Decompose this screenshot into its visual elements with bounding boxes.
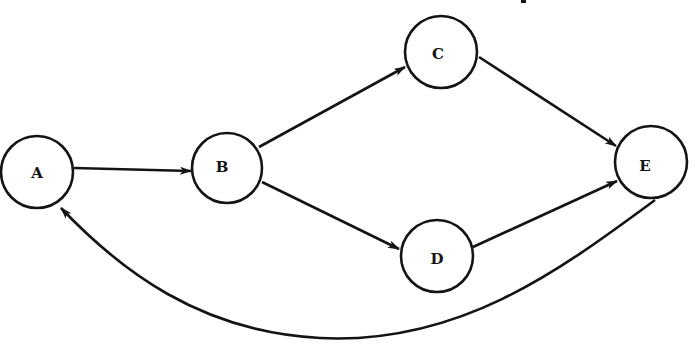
node-a-label: A: [30, 164, 43, 182]
edge-e-to-a: [61, 200, 655, 338]
node-e: E: [615, 126, 687, 198]
node-a: A: [1, 136, 73, 208]
node-d-label: D: [430, 250, 443, 268]
node-c: C: [405, 16, 477, 88]
node-d: D: [401, 220, 473, 292]
cropped-text-fragment: [521, 0, 526, 3]
edge-a-to-b: [74, 168, 191, 171]
edge-c-to-e: [479, 57, 616, 146]
edge-b-to-c: [259, 67, 405, 147]
directed-graph-diagram: A B C D E: [0, 0, 695, 350]
node-e-label: E: [639, 157, 650, 175]
node-c-label: C: [432, 45, 444, 63]
node-b: B: [192, 133, 262, 203]
node-b-label: B: [216, 158, 229, 176]
edge-b-to-d: [262, 182, 399, 249]
edge-d-to-e: [473, 181, 617, 247]
